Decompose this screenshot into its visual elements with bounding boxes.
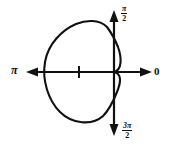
three-pi-over-2-numerator: 3π [122, 121, 132, 130]
pi-over-2-numerator: π [121, 4, 127, 13]
pi-over-2-denominator: 2 [121, 14, 127, 23]
axis-arrow-left-icon [26, 68, 38, 77]
polar-plot-canvas [0, 0, 173, 150]
polar-angle-label-pi-over-2: π 2 [121, 4, 127, 23]
polar-angle-label-0: 0 [154, 66, 160, 77]
axis-arrow-down-icon [110, 124, 119, 136]
three-pi-over-2-denominator: 2 [122, 131, 132, 140]
axis-arrow-right-icon [140, 68, 152, 77]
polar-angle-label-3pi-over-2: 3π 2 [122, 121, 132, 140]
axis-arrow-up-icon [110, 10, 119, 22]
polar-plot-figure: 0 π π 2 3π 2 [0, 0, 173, 150]
polar-angle-label-pi: π [11, 64, 18, 76]
